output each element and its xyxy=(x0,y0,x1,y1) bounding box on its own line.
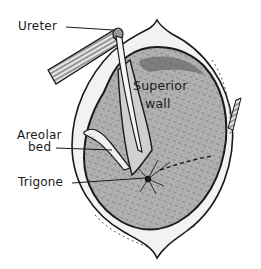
label-superior-wall-line2: wall xyxy=(145,97,171,110)
label-superior-wall-line1: Superior xyxy=(133,79,187,92)
bladder-illustration: Ureter Superior wall Areolar bed Trigone xyxy=(0,0,261,269)
ureter-leader xyxy=(66,27,113,30)
label-areolar-bed-line2: bed xyxy=(28,141,51,154)
label-trigone: Trigone xyxy=(18,176,63,189)
label-ureter: Ureter xyxy=(18,20,57,33)
